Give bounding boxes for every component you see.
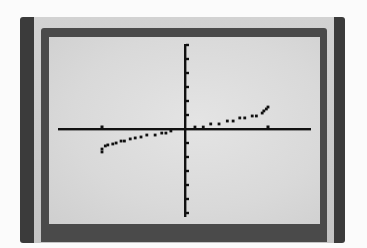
y-tick [186,114,189,116]
y-tick [186,86,189,88]
x-tick [267,126,270,129]
plot-point [106,144,109,147]
plot-point [134,137,137,140]
plot-point [154,134,157,137]
axes [58,44,311,217]
plot-point [226,120,229,123]
plot-point [267,106,270,109]
plot-point [145,134,148,137]
plot-point [238,117,241,120]
lcd-screen [49,37,320,224]
plot-point [209,123,212,126]
y-tick [186,72,189,74]
plot-point [202,126,205,129]
y-tick [186,100,189,102]
plot-point [160,132,163,135]
y-tick [186,44,189,46]
plot-point [255,115,258,118]
plot-point [104,145,107,148]
y-tick [186,58,189,60]
plot-point [194,126,197,129]
plot-point [218,123,221,126]
y-tick [186,156,189,158]
plot-point [140,136,143,139]
plot-point [251,115,254,118]
plot-point [111,143,114,146]
plot-point [243,117,246,120]
y-tick [186,142,189,144]
plot-point [120,140,123,143]
y-axis [184,44,186,217]
plot-point [169,130,172,133]
y-tick [186,212,189,214]
plot-point [165,132,168,135]
plot-point [129,138,132,141]
plot-point [232,120,235,123]
plot-point [123,140,126,143]
x-tick [101,126,104,129]
y-tick [186,184,189,186]
graph-plot [49,37,320,224]
plot-point [101,148,104,151]
plot-point [101,151,104,154]
plot-point [262,110,265,113]
y-tick [186,198,189,200]
plot-point [115,142,118,145]
y-tick [186,170,189,172]
